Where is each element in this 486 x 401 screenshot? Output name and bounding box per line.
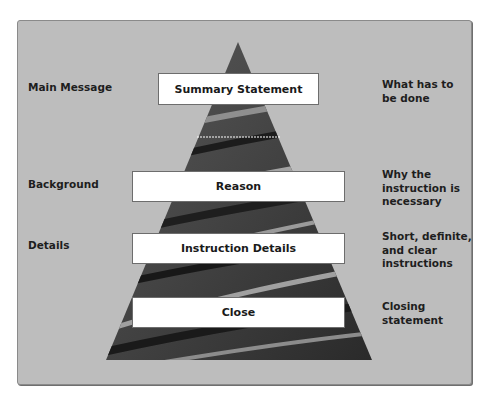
left-label-background: Background — [28, 178, 99, 191]
box-label: Close — [222, 306, 255, 319]
left-label-main-message: Main Message — [28, 81, 112, 94]
pyramid-box-instruction-details: Instruction Details — [132, 233, 345, 264]
pyramid-box-reason: Reason — [132, 171, 345, 202]
box-label: Reason — [216, 180, 261, 193]
right-label-short-definite: Short, definite, and clear instructions — [382, 230, 486, 271]
box-label: Instruction Details — [181, 242, 296, 255]
pyramid-box-summary-statement: Summary Statement — [158, 73, 319, 105]
left-label-details: Details — [28, 239, 69, 252]
right-label-closing-statement: Closing statement — [382, 300, 486, 327]
box-label: Summary Statement — [175, 83, 303, 96]
right-label-why-necessary: Why the instruction is necessary — [382, 168, 486, 209]
pyramid-box-close: Close — [132, 297, 345, 328]
right-label-what-has-to-be-done: What has to be done — [382, 78, 486, 105]
